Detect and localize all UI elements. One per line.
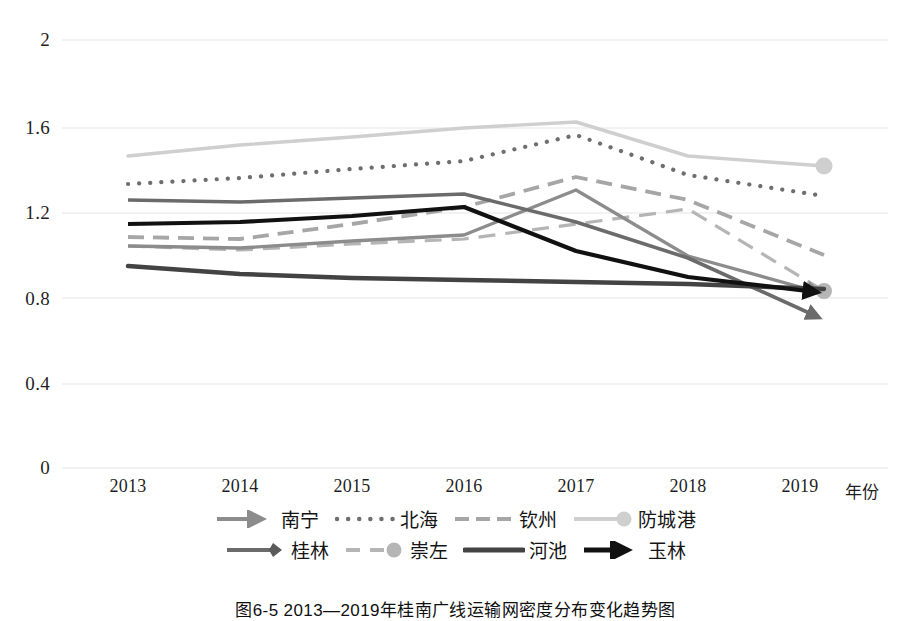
legend-label-nanning: 南宁 [281,505,320,532]
legend-row-1: 南宁 北海 钦州 防城港 [0,503,911,534]
series-line-hechi [128,266,824,289]
legend-swatch-dotted-gray [334,510,396,528]
xtick-label-2016: 2016 [424,476,504,497]
series-line-nanning [128,190,818,292]
legend-label-qinzhou: 钦州 [519,505,558,532]
legend-label-chongzuo: 崇左 [410,536,449,563]
xtick-label-2017: 2017 [536,476,616,497]
legend-label-hechi: 河池 [529,536,568,563]
legend-label-yulin: 玉林 [648,536,687,563]
xtick-label-2015: 2015 [312,476,392,497]
legend-item-chongzuo[interactable]: 崇左 [344,536,449,563]
legend-row-2: 桂林 崇左 河池 玉林 [0,534,911,565]
figure-caption: 图6-5 2013—2019年桂南广线运输网密度分布变化趋势图 [0,596,911,621]
xtick-label-2013: 2013 [88,476,168,497]
legend-item-yulin[interactable]: 玉林 [582,536,687,563]
x-axis-title: 年份 [845,478,879,503]
legend-item-fangchenggang[interactable]: 防城港 [572,505,697,532]
legend-swatch-line-diamond-darkgray [225,541,287,559]
legend-swatch-dashed-gray [453,510,515,528]
legend-label-beihai: 北海 [400,505,439,532]
legend-item-hechi[interactable]: 河池 [463,536,568,563]
legend-item-beihai[interactable]: 北海 [334,505,439,532]
xtick-label-2018: 2018 [648,476,728,497]
xtick-label-2014: 2014 [200,476,280,497]
legend-swatch-line-thick-dark [463,541,525,559]
legend-label-fangchenggang: 防城港 [638,505,697,532]
legend-swatch-line-circle-lightgray [572,510,634,528]
legend-item-qinzhou[interactable]: 钦州 [453,505,558,532]
legend-swatch-dashed-circle-gray [344,541,406,559]
legend-swatch-line-arrow-gray [215,510,277,528]
chart-legend: 南宁 北海 钦州 防城港 [0,503,911,565]
series-marker-fangchenggang [816,158,833,175]
legend-item-nanning[interactable]: 南宁 [215,505,320,532]
legend-item-guilin[interactable]: 桂林 [225,536,330,563]
legend-swatch-line-arrow-black [582,541,644,559]
legend-label-guilin: 桂林 [291,536,330,563]
xtick-label-2019: 2019 [760,476,840,497]
series-line-qinzhou [128,177,824,255]
